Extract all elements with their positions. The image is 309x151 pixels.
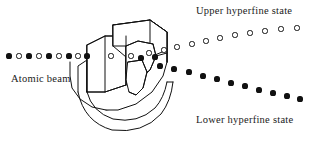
beam-particle-open [16,53,21,58]
beam-particle-filled [157,63,162,68]
beam-particle-filled [284,93,289,98]
beam-particle-filled [186,69,191,74]
beam-particle-open [146,50,151,55]
atomic-beam-label: Atomic beam [11,74,71,85]
beam-particle-filled [256,87,261,92]
beam-particle-open [128,53,133,58]
beam-particle-open [278,26,283,31]
beam-particle-open [247,30,252,35]
beam-particle-filled [152,54,157,59]
beam-particle-open [75,53,80,58]
beam-particle-open [203,38,208,43]
beam-particle-open [161,47,166,52]
beam-particle-filled [228,80,233,85]
beam-particle-filled [200,73,205,78]
beam-particle-open [174,44,179,49]
lower-hyperfine-state-label: Lower hyperfine state [196,115,293,126]
beam-particle-filled [171,66,176,71]
beam-particle-filled [214,76,219,81]
upper-hyperfine-state-label: Upper hyperfine state [196,6,292,17]
beam-particle-filled [242,83,247,88]
beam-particle-open [56,53,61,58]
beam-particle-filled [270,90,275,95]
beam-particle-open [217,35,222,40]
beam-particle-open [189,41,194,46]
beam-particle-filled [138,55,143,60]
beam-particle-filled [66,53,71,58]
beam-particle-filled [297,96,302,101]
atomic-beam-magnet-figure: Upper hyperfine state Lower hyperfine st… [0,0,309,151]
beam-particle-open [232,32,237,37]
beam-particle-open [294,25,299,30]
beam-particle-filled [84,53,89,58]
beam-particle-filled [6,53,11,58]
beam-particle-open [108,53,113,58]
beam-particle-filled [46,53,51,58]
beam-particle-open [36,53,41,58]
beam-particle-filled [26,53,31,58]
beam-particle-open [262,28,267,33]
